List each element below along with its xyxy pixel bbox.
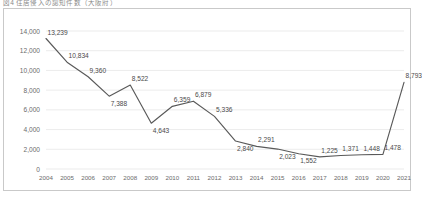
figure-title: 図4 住居侵入の認知件数（大阪府） <box>3 0 117 7</box>
x-axis-tick-label: 2006 <box>77 174 99 181</box>
data-point-label: 7,388 <box>111 100 128 107</box>
x-axis-tick-label: 2012 <box>203 174 225 181</box>
data-point-label: 2,023 <box>279 153 296 160</box>
data-point-label: 2,840 <box>237 145 254 152</box>
x-axis-tick-label: 2016 <box>288 174 310 181</box>
data-point-label: 5,336 <box>216 106 233 113</box>
y-axis-tick-label: 10,000 <box>4 67 40 74</box>
x-axis-tick-label: 2017 <box>309 174 331 181</box>
x-axis-tick-label: 2019 <box>351 174 373 181</box>
x-axis-tick-label: 2007 <box>98 174 120 181</box>
y-axis-tick-label: 6,000 <box>4 106 40 113</box>
data-point-label: 8,793 <box>406 72 422 79</box>
data-point-label: 6,879 <box>195 91 212 98</box>
data-point-label: 1,552 <box>300 157 317 164</box>
data-point-label: 2,291 <box>258 136 275 143</box>
x-axis-tick-label: 2009 <box>140 174 162 181</box>
line-chart-svg <box>4 9 412 192</box>
x-axis-tick-label: 2018 <box>330 174 352 181</box>
y-axis-tick-label: 12,000 <box>4 47 40 54</box>
x-axis-tick-label: 2004 <box>35 174 57 181</box>
x-axis-tick-label: 2011 <box>182 174 204 181</box>
x-axis-tick-label: 2020 <box>372 174 394 181</box>
y-axis-tick-label: 2,000 <box>4 146 40 153</box>
data-point-label: 1,478 <box>384 144 401 151</box>
data-point-label: 1,225 <box>321 147 338 154</box>
x-axis-tick-label: 2005 <box>56 174 78 181</box>
chart-frame: 02,0004,0006,0008,00010,00012,00014,000 … <box>3 8 411 191</box>
x-axis-tick-label: 2008 <box>119 174 141 181</box>
data-point-label: 1,448 <box>363 145 380 152</box>
data-point-label: 1,371 <box>342 145 359 152</box>
x-axis-tick-label: 2021 <box>393 174 415 181</box>
data-point-label: 4,643 <box>153 127 170 134</box>
x-axis-tick-label: 2014 <box>246 174 268 181</box>
y-axis-tick-label: 4,000 <box>4 126 40 133</box>
y-axis-tick-label: 8,000 <box>4 87 40 94</box>
data-point-label: 6,359 <box>174 96 191 103</box>
chart-plot-area <box>4 9 412 192</box>
x-axis-tick-label: 2010 <box>161 174 183 181</box>
data-point-label: 8,522 <box>132 75 149 82</box>
y-axis-tick-label: 0 <box>4 166 40 173</box>
y-axis-tick-label: 14,000 <box>4 28 40 35</box>
x-axis-tick-label: 2015 <box>267 174 289 181</box>
data-point-label: 13,239 <box>48 29 68 36</box>
data-point-label: 9,360 <box>90 67 107 74</box>
x-axis-tick-label: 2013 <box>225 174 247 181</box>
data-point-label: 10,834 <box>69 52 89 59</box>
